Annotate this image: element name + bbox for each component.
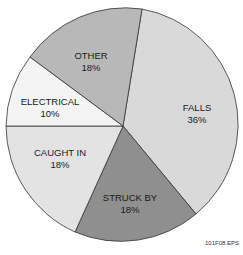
label-other: OTHER 18% bbox=[74, 50, 107, 74]
label-electrical: ELECTRICAL 10% bbox=[21, 96, 80, 120]
pie-chart bbox=[0, 0, 243, 255]
label-caught-in: CAUGHT IN 18% bbox=[34, 147, 86, 171]
caught-in-name: CAUGHT IN bbox=[34, 147, 86, 159]
falls-name: FALLS bbox=[183, 102, 212, 114]
label-struck-by: STRUCK BY 18% bbox=[103, 192, 157, 216]
source-file-label: 101F08.EPS bbox=[205, 240, 239, 246]
struck-by-pct: 18% bbox=[103, 204, 157, 216]
electrical-name: ELECTRICAL bbox=[21, 96, 80, 108]
falls-pct: 36% bbox=[183, 114, 212, 126]
other-pct: 18% bbox=[74, 62, 107, 74]
electrical-pct: 10% bbox=[21, 108, 80, 120]
other-name: OTHER bbox=[74, 50, 107, 62]
label-falls: FALLS 36% bbox=[183, 102, 212, 126]
struck-by-name: STRUCK BY bbox=[103, 192, 157, 204]
caught-in-pct: 18% bbox=[34, 159, 86, 171]
